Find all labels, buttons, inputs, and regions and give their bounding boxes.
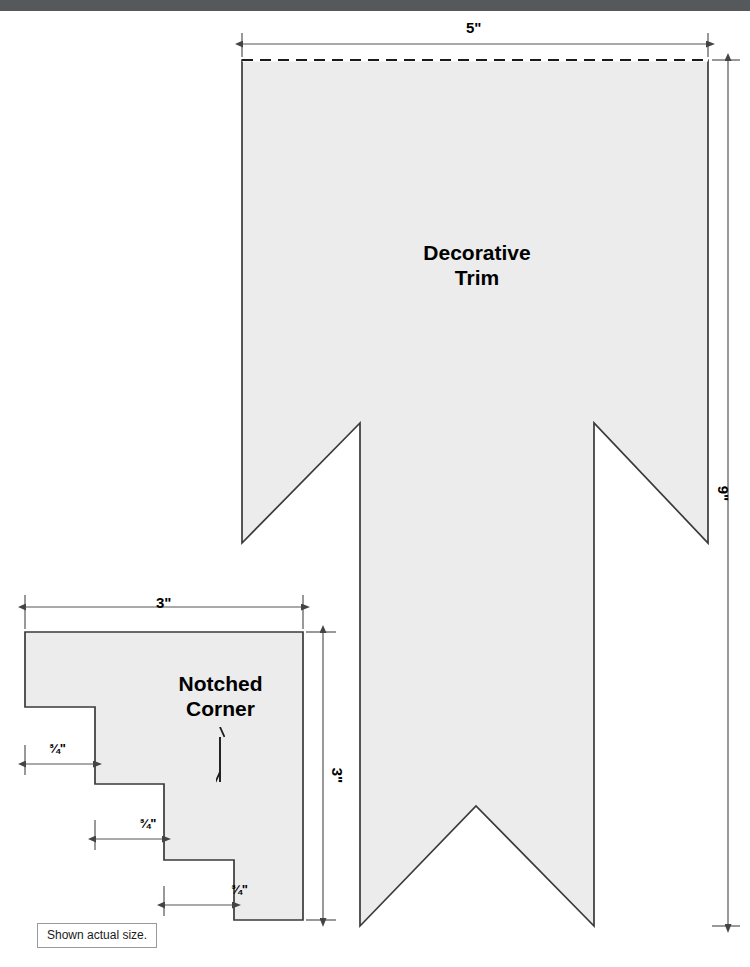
decorative-trim-title-line2: Trim [417,266,537,290]
step-1-label: ¾" [49,742,66,757]
pattern-sheet: 5" 9" Decorative Trim 3" 3" Notched Corn… [0,0,750,967]
decorative-trim-piece[interactable] [242,60,708,926]
trim-width-dimension [242,33,708,57]
corner-width-label: 3" [156,594,171,611]
step-3-label: ¾" [231,883,248,898]
trim-width-label: 5" [466,19,481,36]
trim-height-label: 9" [715,486,732,501]
shown-actual-size-note: Shown actual size. [37,923,157,948]
pattern-drawing-canvas [0,0,750,967]
step-dimension-3 [164,886,234,918]
notched-corner-title-line1: Notched [168,672,273,696]
decorative-trim-outline [242,60,708,926]
decorative-trim-title-line1: Decorative [417,241,537,265]
corner-height-label: 3" [329,768,346,783]
notched-corner-title-line2: Corner [168,697,273,721]
step-2-label: ¾" [139,817,156,832]
